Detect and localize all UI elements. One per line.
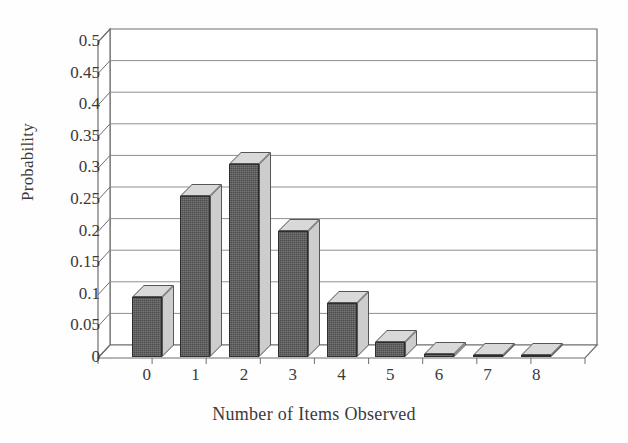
y-tick-label: 0.1 bbox=[44, 285, 100, 302]
x-tick-label: 6 bbox=[419, 364, 459, 386]
y-tick-label: 0.5 bbox=[44, 32, 100, 49]
bar-front-face bbox=[278, 231, 308, 357]
bar-side-face bbox=[162, 285, 174, 357]
bar-front-face bbox=[327, 303, 357, 357]
x-tick-label: 0 bbox=[127, 364, 167, 386]
x-tick-label: 1 bbox=[175, 364, 215, 386]
bar-side-face bbox=[210, 184, 222, 357]
y-tick-label: 0.15 bbox=[44, 253, 100, 270]
y-tick-label: 0 bbox=[44, 348, 100, 365]
x-axis-title: Number of Items Observed bbox=[0, 404, 628, 425]
y-tick-label: 0.4 bbox=[44, 95, 100, 112]
bar-column bbox=[132, 285, 162, 357]
bar-front-face bbox=[229, 164, 259, 357]
y-tick-label: 0.3 bbox=[44, 158, 100, 175]
y-tick-label: 0.2 bbox=[44, 222, 100, 239]
y-tick-label: 0.35 bbox=[44, 127, 100, 144]
bar-side-face bbox=[308, 219, 320, 357]
y-tick-label: 0.05 bbox=[44, 316, 100, 333]
x-tick-label: 8 bbox=[516, 364, 556, 386]
y-tick-label: 0.45 bbox=[44, 64, 100, 81]
x-tick-label: 5 bbox=[370, 364, 410, 386]
bar-top-face bbox=[521, 343, 563, 355]
bar-column bbox=[327, 291, 357, 357]
bar-front-face bbox=[132, 297, 162, 357]
bar-column bbox=[521, 343, 551, 357]
bar-front-face bbox=[473, 355, 503, 357]
bar-column bbox=[278, 219, 308, 357]
bar-column bbox=[180, 184, 210, 357]
bar-front-face bbox=[521, 355, 551, 357]
x-tick-label: 4 bbox=[322, 364, 362, 386]
bar-column bbox=[424, 342, 454, 357]
x-axis-tick-labels: 012345678 bbox=[0, 364, 628, 392]
bar-column bbox=[375, 330, 405, 357]
bar-top-face bbox=[473, 343, 515, 355]
x-tick-label: 3 bbox=[273, 364, 313, 386]
bar-column bbox=[229, 152, 259, 357]
bar-front-face bbox=[180, 196, 210, 357]
x-tick-label: 7 bbox=[468, 364, 508, 386]
chart-figure: 00.050.10.150.20.250.30.350.40.450.5 012… bbox=[0, 0, 628, 443]
bar-side-face bbox=[259, 152, 271, 357]
bar-front-face bbox=[375, 342, 405, 357]
bar-front-face bbox=[424, 354, 454, 357]
y-tick-label: 0.25 bbox=[44, 190, 100, 207]
bar-top-face bbox=[424, 342, 466, 354]
x-tick-label: 2 bbox=[224, 364, 264, 386]
bar-column bbox=[473, 343, 503, 357]
y-axis-title: Probability bbox=[18, 72, 38, 252]
